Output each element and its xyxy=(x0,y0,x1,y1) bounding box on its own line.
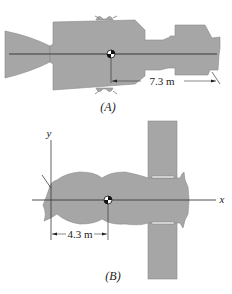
panel-slot-bottom xyxy=(152,222,174,224)
dimension-label-b: 4.3 m xyxy=(67,228,93,240)
arrow-right-icon xyxy=(102,233,107,236)
spacecraft-a-body xyxy=(50,20,220,90)
figure-b: y x 4.3 m (B) xyxy=(32,121,225,283)
center-of-mass-icon-a xyxy=(107,50,115,58)
spacecraft-a-bottom-prongs xyxy=(95,91,117,94)
figure-a: 7.3 m (A) xyxy=(5,16,220,114)
y-axis-label: y xyxy=(46,127,52,139)
caption-a: (A) xyxy=(100,100,115,114)
x-axis-label: x xyxy=(219,193,225,205)
arrow-left-icon xyxy=(52,233,57,236)
dimension-label-a: 7.3 m xyxy=(149,75,175,87)
spacecraft-b-antenna xyxy=(42,175,51,188)
arrow-right-icon xyxy=(211,80,216,83)
diagram-figure: 7.3 m (A) y x 4.3 m xyxy=(0,0,232,294)
center-of-mass-icon-b xyxy=(104,196,112,204)
caption-b: (B) xyxy=(105,269,120,283)
diagram-canvas: 7.3 m (A) y x 4.3 m xyxy=(0,0,232,294)
spacecraft-a-antenna xyxy=(212,72,220,84)
panel-slot-top xyxy=(152,176,174,178)
